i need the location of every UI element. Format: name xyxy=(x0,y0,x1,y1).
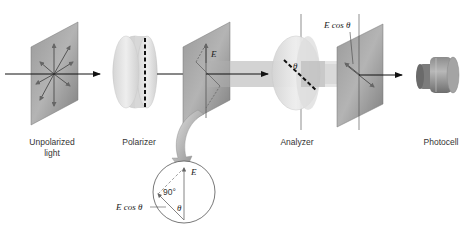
inset-E-label: E xyxy=(190,167,197,177)
vector-inset: E 90° θ E cos θ xyxy=(115,161,215,223)
polarizer-disk xyxy=(113,36,157,108)
inset-e-cos-theta-label: E cos θ xyxy=(115,202,143,212)
photocell xyxy=(416,57,459,93)
polarization-diagram: E θ E cos θ Unpolarized light Polarizer … xyxy=(0,0,475,237)
photocell-label: Photocell xyxy=(424,137,459,147)
inset-theta-label: θ xyxy=(177,203,182,213)
analyzer-disk: θ xyxy=(272,36,325,110)
inset-90-degree-label: 90° xyxy=(163,187,176,197)
polarizer-label: Polarizer xyxy=(122,137,156,147)
e-cos-theta-label: E cos θ xyxy=(323,20,351,30)
field-E-label: E xyxy=(210,49,217,59)
analyzer-label: Analyzer xyxy=(280,137,313,147)
unpolarized-light-label-line1: Unpolarized xyxy=(29,137,75,147)
theta-label: θ xyxy=(293,61,298,71)
unpolarized-light-label-line2: light xyxy=(44,148,60,158)
